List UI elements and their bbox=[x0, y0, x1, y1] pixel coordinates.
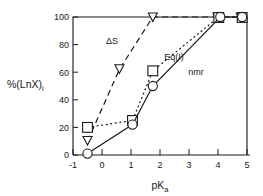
y-tick-label-40: 40 bbox=[59, 95, 69, 105]
marker-triangle-down bbox=[115, 65, 124, 74]
y-tick-label-100: 100 bbox=[54, 12, 69, 22]
marker-circle bbox=[148, 81, 157, 90]
annotation-eq1: Eq(I) bbox=[164, 52, 184, 62]
marker-circle bbox=[238, 12, 247, 21]
x-axis-ticks: -1 0 1 2 3 4 5 bbox=[69, 149, 250, 170]
marker-square bbox=[83, 123, 93, 133]
marker-square bbox=[148, 66, 158, 76]
x-tick-label-2: 2 bbox=[157, 160, 162, 170]
series-nmr bbox=[83, 12, 247, 158]
y-tick-label-20: 20 bbox=[59, 123, 69, 133]
x-axis-title: pKa bbox=[151, 179, 169, 194]
y-axis-ticks: 0 20 40 60 80 100 bbox=[54, 12, 78, 160]
y-tick-label-60: 60 bbox=[59, 68, 69, 78]
marker-circle bbox=[216, 12, 225, 21]
series-eq1-line bbox=[88, 17, 243, 127]
x-tick-label-neg1: -1 bbox=[69, 160, 77, 170]
annotation-nmr: nmr bbox=[188, 67, 204, 77]
y-axis-title-sub: i bbox=[42, 84, 44, 93]
y-axis-title: %(LnX)i bbox=[7, 78, 44, 93]
x-tick-label-4: 4 bbox=[215, 160, 220, 170]
axes-frame bbox=[73, 17, 250, 155]
x-axis-title-sub: a bbox=[164, 185, 169, 194]
y-tick-label-80: 80 bbox=[59, 40, 69, 50]
plot-canvas: 0 20 40 60 80 100 -1 0 1 2 3 4 5 pKa bbox=[0, 0, 263, 196]
series-delta-s bbox=[83, 13, 245, 145]
x-tick-label-3: 3 bbox=[186, 160, 191, 170]
marker-circle bbox=[83, 149, 92, 158]
series-eq1 bbox=[83, 13, 248, 133]
y-tick-label-0: 0 bbox=[64, 150, 69, 160]
y-axis-title-main: %(LnX) bbox=[7, 78, 42, 90]
chart-figure: 0 20 40 60 80 100 -1 0 1 2 3 4 5 pKa bbox=[0, 0, 263, 196]
x-tick-label-1: 1 bbox=[128, 160, 133, 170]
marker-circle bbox=[128, 120, 137, 129]
x-tick-label-0: 0 bbox=[99, 160, 104, 170]
x-tick-label-5: 5 bbox=[244, 160, 249, 170]
marker-triangle-down bbox=[83, 137, 92, 146]
annotation-delta-s: ΔS bbox=[106, 36, 118, 46]
plot-border bbox=[73, 17, 247, 155]
x-axis-title-main: pK bbox=[151, 179, 164, 191]
